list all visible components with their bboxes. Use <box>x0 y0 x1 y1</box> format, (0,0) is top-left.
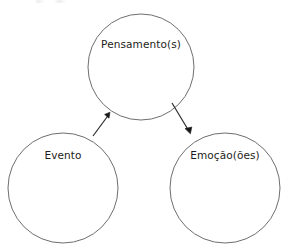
node-label-pensamentos: Pensamento(s) <box>101 38 181 50</box>
node-label-emocoes: Emoção(ões) <box>190 149 260 161</box>
arrow-shaft <box>93 115 109 136</box>
node-label-evento: Evento <box>44 149 81 161</box>
arrow-evento-to-pensamentos <box>93 112 110 136</box>
node-circle-pensamentos[interactable] <box>88 14 194 120</box>
arrow-head-icon <box>185 127 192 134</box>
clipped-text-artifact <box>35 0 75 3</box>
arrow-shaft <box>172 103 189 131</box>
arrow-pensamentos-to-emocoes <box>172 103 192 134</box>
diagram-canvas: Pensamento(s) Evento Emoção(ões) <box>0 0 286 251</box>
